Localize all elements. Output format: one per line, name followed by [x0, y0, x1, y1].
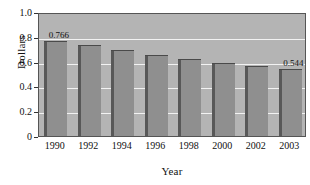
y-axis-tick-label-wrap: 1.0 — [0, 8, 32, 18]
bar-chart: Dollars 1.00.80.60.40.20 0.7660.544 1990… — [0, 0, 310, 185]
bar-top-edge — [78, 45, 101, 46]
bar-shade — [212, 63, 215, 136]
y-axis-tick-label-wrap: 0.8 — [0, 33, 32, 43]
x-axis-tick-label: 2003 — [269, 141, 309, 151]
bar-shade — [245, 66, 248, 136]
bar — [178, 59, 201, 136]
gridline — [39, 39, 305, 40]
bar-shade — [44, 41, 47, 136]
bar-shade — [145, 55, 148, 136]
bar — [78, 45, 101, 136]
bar-shade — [279, 69, 282, 137]
bar-top-edge — [279, 69, 302, 70]
bar-shade — [78, 45, 81, 136]
bar — [212, 63, 235, 136]
y-axis-tick-label: 0.4 — [2, 82, 32, 92]
bar-top-edge — [212, 63, 235, 64]
bar-top-edge — [44, 41, 67, 42]
y-axis-tick-label: 0.2 — [2, 107, 32, 117]
bar-top-edge — [111, 50, 134, 51]
y-axis-tick-label: 0.6 — [2, 58, 32, 68]
y-axis-tick-label: 1.0 — [2, 8, 32, 18]
plot-area — [38, 13, 306, 137]
bar — [279, 69, 302, 137]
bar — [111, 50, 134, 136]
x-axis-title: Year — [38, 165, 306, 177]
bar-shade — [178, 59, 181, 136]
bar — [145, 55, 168, 136]
y-axis-tick-label-wrap: 0.2 — [0, 107, 32, 117]
y-axis-tick-label-wrap: 0 — [0, 132, 32, 142]
y-axis-tick-label-wrap: 0.6 — [0, 58, 32, 68]
y-axis-tick-label: 0 — [2, 132, 32, 142]
y-axis-tick-label: 0.8 — [2, 33, 32, 43]
y-axis-tick-label-wrap: 0.4 — [0, 82, 32, 92]
bar-value-label: 0.544 — [283, 59, 303, 68]
bar-shade — [111, 50, 114, 136]
bar-top-edge — [145, 55, 168, 56]
bar — [44, 41, 67, 136]
bar-top-edge — [178, 59, 201, 60]
bar-value-label: 0.766 — [49, 31, 69, 40]
bar — [245, 66, 268, 136]
y-axis-tick — [34, 137, 38, 138]
bar-top-edge — [245, 66, 268, 67]
